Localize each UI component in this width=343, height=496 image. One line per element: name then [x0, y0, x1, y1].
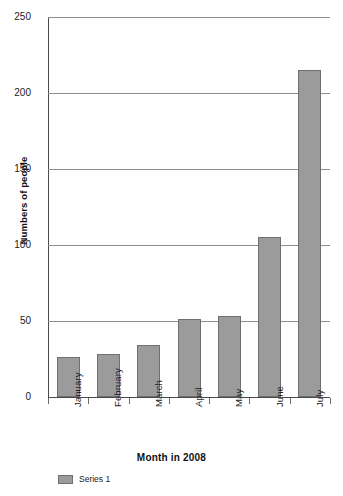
- x-tick-mark: [129, 398, 130, 404]
- bar-chart: Numbers of people 050100150200250 Januar…: [0, 0, 343, 496]
- bar: [298, 70, 321, 397]
- gridline: [48, 17, 330, 18]
- x-tick-label: February: [112, 368, 123, 407]
- gridline: [48, 93, 330, 94]
- bar: [258, 237, 281, 397]
- x-tick-label: January: [72, 373, 83, 408]
- y-tick-label: 100: [0, 240, 31, 250]
- x-axis-line: [48, 397, 330, 398]
- y-tick-label: 250: [0, 12, 31, 22]
- y-tick-label: 50: [0, 316, 31, 326]
- gridline: [48, 245, 330, 246]
- x-tick-mark: [48, 398, 49, 404]
- x-tick-mark: [209, 398, 210, 404]
- y-axis-line: [48, 17, 49, 398]
- legend-label-series-1: Series 1: [79, 474, 110, 484]
- y-tick-label: 200: [0, 88, 31, 98]
- y-tick-label: 150: [0, 164, 31, 174]
- x-tick-mark: [330, 398, 331, 404]
- x-tick-mark: [290, 398, 291, 404]
- chart-legend: Series 1: [58, 474, 110, 484]
- x-tick-mark: [249, 398, 250, 404]
- plot-area: 050100150200250 JanuaryFebruaryMarchApri…: [48, 17, 330, 397]
- x-tick-label: July: [314, 390, 325, 407]
- gridline: [48, 169, 330, 170]
- x-axis-title: Month in 2008: [0, 452, 343, 463]
- legend-swatch-series-1: [58, 475, 73, 484]
- y-tick-label: 0: [0, 392, 31, 402]
- x-tick-mark: [88, 398, 89, 404]
- bar: [178, 319, 201, 397]
- x-tick-mark: [169, 398, 170, 404]
- bar: [218, 316, 241, 397]
- x-tick-label: March: [153, 380, 164, 407]
